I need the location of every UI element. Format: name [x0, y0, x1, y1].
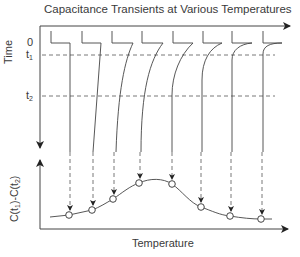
data-points — [66, 180, 265, 223]
top-axes — [40, 26, 290, 148]
capacitance-difference-axis-label: C(t1)-C(t2) — [8, 176, 21, 222]
capacitance-transients — [51, 31, 282, 152]
tick-t1: t1 — [26, 48, 33, 61]
time-axis-label: Time — [2, 40, 14, 64]
time-gridlines — [42, 55, 275, 96]
diagram-graphics — [0, 0, 300, 257]
projection-arrows — [70, 152, 262, 214]
tick-zero: 0 — [27, 36, 33, 48]
tick-t2: t2 — [26, 89, 33, 102]
diagram-title: Capacitance Transients at Various Temper… — [44, 3, 292, 15]
temperature-axis-label: Temperature — [132, 237, 194, 249]
dlts-peak-curve — [50, 179, 272, 219]
